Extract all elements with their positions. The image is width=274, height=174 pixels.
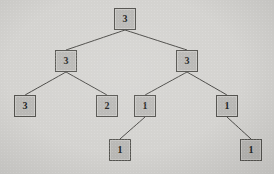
tree-node-value: 3 [123, 14, 128, 24]
tree-node-value: 1 [249, 145, 254, 155]
tree-node-right-right: 1 [216, 95, 238, 117]
tree-node-root: 3 [114, 8, 136, 30]
tree-node-right: 3 [176, 50, 198, 72]
edge-right-to-right-right [187, 72, 227, 95]
tree-node-value: 3 [185, 56, 190, 66]
edge-root-to-right [125, 30, 187, 50]
tree-node-right-left-left: 1 [109, 139, 131, 161]
tree-node-left-right: 2 [96, 95, 118, 117]
edge-right-right-to-child [227, 117, 251, 139]
tree-edge-layer [0, 0, 274, 174]
edge-left-to-left-left [25, 72, 66, 95]
tree-node-value: 1 [143, 101, 148, 111]
tree-node-value: 1 [225, 101, 230, 111]
edge-right-to-right-left [145, 72, 187, 95]
edge-left-to-left-right [66, 72, 107, 95]
tree-node-value: 1 [118, 145, 123, 155]
tree-node-value: 3 [64, 56, 69, 66]
tree-node-value: 3 [23, 101, 28, 111]
tree-node-left-left: 3 [14, 95, 36, 117]
tree-diagram: 333321111 [0, 0, 274, 174]
edge-root-to-left [66, 30, 125, 50]
tree-node-right-right-right: 1 [240, 139, 262, 161]
tree-node-value: 2 [105, 101, 110, 111]
tree-node-right-left: 1 [134, 95, 156, 117]
tree-node-left: 3 [55, 50, 77, 72]
edge-right-left-to-child [120, 117, 145, 139]
